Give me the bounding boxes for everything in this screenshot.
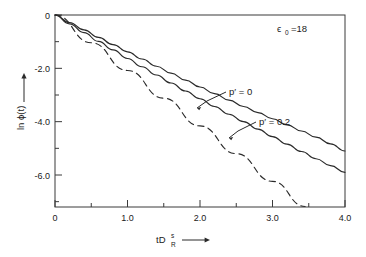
figure-container: 01.02.03.04.0 0-2.0-4.0-6.0 ϵ 0 =18 p′ =… (0, 0, 366, 257)
x-tick-label: 1.0 (121, 213, 134, 223)
x-tick-label: 3.0 (266, 213, 279, 223)
p-prime-02-label: p′ = 0.2 (259, 116, 290, 127)
y-axis-title: ln ϕ(t) (15, 106, 26, 130)
epsilon-subscript: 0 (285, 29, 289, 36)
y-tick-label: 0 (45, 11, 50, 21)
y-tick-label: -4.0 (34, 117, 50, 127)
y-tick-label: -6.0 (34, 171, 50, 181)
x-tick-label: 0 (52, 213, 57, 223)
y-tick-label: -2.0 (34, 64, 50, 74)
x-axis-title-base: tD (156, 234, 166, 245)
line-chart: 01.02.03.04.0 0-2.0-4.0-6.0 ϵ 0 =18 p′ =… (0, 0, 366, 257)
epsilon-value: =18 (291, 23, 307, 34)
x-tick-label: 2.0 (194, 213, 207, 223)
x-tick-label: 4.0 (339, 213, 352, 223)
p-prime-0-label: p′ = 0 (229, 86, 252, 97)
x-axis-title-subscript: R (171, 241, 176, 248)
epsilon-symbol: ϵ (277, 23, 281, 34)
